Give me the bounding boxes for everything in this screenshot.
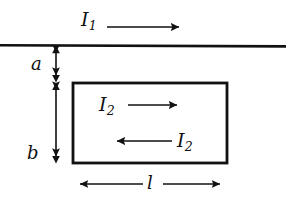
dimension-a-bottom-tick <box>52 75 60 83</box>
physics-diagram: I1 I2 I2 a b l <box>0 0 303 201</box>
wire-current-symbol: I <box>81 8 89 30</box>
wire-current-label: I1 <box>81 10 97 32</box>
loop-current-bottom-subscript: 2 <box>185 139 193 154</box>
loop-current-label-bottom: I2 <box>177 131 193 153</box>
loop-current-top-symbol: I <box>99 93 107 115</box>
straight-wire <box>0 45 286 46</box>
dimension-label-a: a <box>31 55 42 73</box>
dimension-b-top-tick <box>52 82 60 90</box>
loop-current-bottom-symbol: I <box>177 129 185 151</box>
dimension-label-l: l <box>147 174 153 192</box>
loop-current-top-subscript: 2 <box>107 103 115 118</box>
diagram-canvas <box>0 0 303 201</box>
dimension-label-b: b <box>27 144 39 162</box>
wire-current-subscript: 1 <box>89 18 97 33</box>
rectangular-loop <box>73 83 227 163</box>
dimension-b-bottom-tick <box>52 156 60 164</box>
loop-current-label-top: I2 <box>99 95 115 117</box>
